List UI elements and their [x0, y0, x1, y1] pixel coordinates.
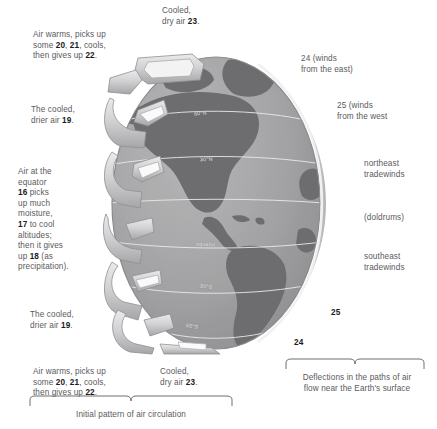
- figure-canvas: 60°N 30°N equator 30°S 60°S Air warms, p…: [0, 0, 437, 429]
- annotation-winds-from-east-24: 24 (winds from the east): [301, 54, 391, 75]
- annotation-top-left: Air warms, picks up some 20, 21, cools, …: [33, 30, 153, 62]
- right-caption-brace: [284, 357, 426, 371]
- annotation-lower-left-cooled-drier-air: The cooled, drier air 19.: [30, 310, 110, 331]
- caption-deflections: Deflections in the paths of air flow nea…: [282, 373, 432, 394]
- annotation-northeast-tradewinds: northeast tradewinds: [364, 159, 434, 180]
- latitude-label-30s: 30°S: [200, 282, 213, 289]
- annotation-marker-24: 24: [294, 338, 303, 349]
- annotation-top-center-cooled-dry-air: Cooled, dry air 23.: [162, 6, 242, 27]
- left-caption-brace: [28, 394, 234, 408]
- annotation-doldrums: (doldrums): [364, 213, 434, 224]
- annotation-mid-left-equator-air: Air at the equator 16 picks up much mois…: [18, 167, 84, 273]
- latitude-label-30n: 30°N: [200, 156, 213, 163]
- annotation-marker-25: 25: [331, 308, 340, 319]
- earth-globe: 60°N 30°N equator 30°S 60°S: [108, 52, 336, 354]
- globe-svg: [108, 52, 336, 354]
- caption-initial-pattern: Initial pattern of air circulation: [28, 410, 234, 421]
- annotation-bottom-center-cooled-dry-air: Cooled, dry air 23.: [160, 367, 240, 388]
- latitude-label-equator: equator: [196, 240, 216, 247]
- annotation-winds-from-west-25: 25 (winds from the west: [337, 101, 432, 122]
- annotation-southeast-tradewinds: southeast tradewinds: [364, 252, 434, 273]
- annotation-upper-left-cooled-drier-air: The cooled, drier air 19.: [31, 105, 111, 126]
